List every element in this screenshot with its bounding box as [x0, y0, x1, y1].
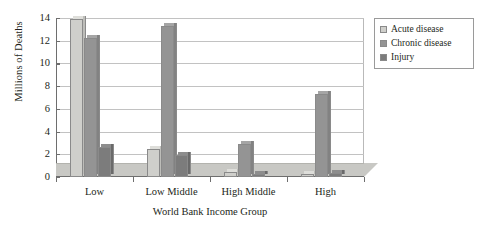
x-tick-mark: [287, 177, 288, 182]
legend-label: Acute disease: [391, 24, 444, 35]
y-tick-mark: [56, 41, 60, 42]
gridline: [56, 41, 364, 42]
x-tick-mark: [210, 177, 211, 182]
bar-chart: Millions of Deaths 02468101214 LowLow Mi…: [0, 0, 482, 236]
y-tick-mark: [56, 86, 60, 87]
legend-item: Acute disease: [380, 24, 469, 35]
x-tick-mark: [364, 177, 365, 182]
y-tick-mark: [56, 109, 60, 110]
y-tick-mark: [56, 154, 60, 155]
gridline: [56, 154, 364, 155]
legend-item: Chronic disease: [380, 38, 469, 49]
gridline: [56, 132, 364, 133]
gridline: [56, 109, 364, 110]
plot-frame: [56, 18, 364, 177]
chart-floor-side: [364, 163, 378, 177]
y-tick-mark: [56, 132, 60, 133]
legend-label: Injury: [391, 52, 414, 63]
chart-floor: [56, 163, 364, 177]
legend-label: Chronic disease: [391, 38, 451, 49]
y-tick-label: 2: [24, 149, 50, 159]
y-tick-label: 4: [24, 127, 50, 137]
y-tick-mark: [56, 63, 60, 64]
y-tick-label: 10: [24, 58, 50, 68]
y-tick-label: 6: [24, 104, 50, 114]
y-tick-label: 0: [24, 172, 50, 182]
gridline: [56, 86, 364, 87]
y-tick-label: 14: [24, 13, 50, 23]
y-tick-mark: [56, 18, 60, 19]
legend-item: Injury: [380, 52, 469, 63]
y-tick-label: 12: [24, 36, 50, 46]
legend-swatch-chronic-disease: [380, 40, 387, 47]
x-axis-title: World Bank Income Group: [56, 206, 364, 217]
legend-swatch-acute-disease: [380, 26, 387, 33]
x-tick-mark: [56, 177, 57, 182]
gridline: [56, 63, 364, 64]
x-axis-tick-label: High: [281, 186, 371, 197]
legend: Acute disease Chronic disease Injury: [374, 18, 474, 69]
legend-swatch-injury: [380, 54, 387, 61]
y-tick-label: 8: [24, 81, 50, 91]
chart-floor-edge: [56, 163, 364, 164]
gridline: [56, 18, 364, 19]
x-tick-mark: [133, 177, 134, 182]
